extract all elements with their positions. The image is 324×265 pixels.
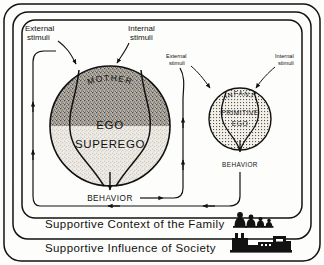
infant-ego-label: EGO <box>232 120 248 127</box>
society-band-label: Supportive Influence of Society <box>45 242 216 254</box>
cityscape-factory-icon <box>230 233 292 253</box>
mother-system: MOTHER EGO SUPEREGO <box>45 60 177 192</box>
mother-external-stimuli-group: External stimuli <box>25 24 76 64</box>
mother-external-stimuli-leader <box>58 41 76 64</box>
diagram-canvas: MOTHER EGO SUPEREGO INFANT PRIMITIVE EGO… <box>0 0 324 265</box>
infant-external-stimuli-group: External stimuli <box>166 53 210 88</box>
mother-ego-label: EGO <box>96 119 123 131</box>
mother-internal-stimuli-leader <box>117 43 129 63</box>
psychodynamic-diagram: MOTHER EGO SUPEREGO INFANT PRIMITIVE EGO… <box>0 0 324 265</box>
mother-internal-stimuli-line2: stimuli <box>130 33 153 42</box>
mother-behavior-label: BEHAVIOR <box>87 194 133 203</box>
mother-internal-stimuli-group: Internal stimuli <box>117 24 155 63</box>
mother-external-stimuli-line1: External <box>25 24 55 33</box>
infant-internal-stimuli-line2: stimuli <box>278 60 294 66</box>
infant-internal-stimuli-leader <box>256 67 275 88</box>
infant-primitive-label: PRIMITIVE <box>221 109 259 116</box>
mother-internal-stimuli-line1: Internal <box>128 24 155 33</box>
family-band-label: Supportive Context of the Family <box>45 218 225 230</box>
infant-behavior-label: BEHAVIOR <box>222 161 258 168</box>
infant-internal-stimuli-group: Internal stimuli <box>256 53 294 88</box>
infant-external-stimuli-leader <box>191 66 210 88</box>
infant-internal-stimuli-line1: Internal <box>275 53 294 59</box>
infant-external-stimuli-line2: stimuli <box>169 60 185 66</box>
family-figures-icon <box>233 212 273 228</box>
mother-external-stimuli-line2: stimuli <box>27 33 50 42</box>
mother-superego-label: SUPEREGO <box>75 138 145 150</box>
infant-external-stimuli-line1: External <box>166 53 187 59</box>
